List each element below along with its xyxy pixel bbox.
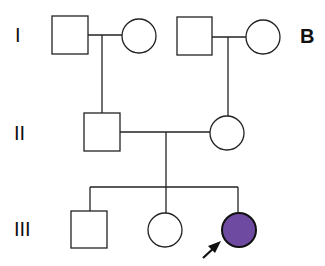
pedigree-chart: I II III B: [0, 0, 325, 266]
individual-III-1-male: [71, 211, 107, 248]
proband-arrow-icon: [203, 241, 221, 258]
individual-II-1-male: [84, 113, 120, 151]
individual-I-3-male: [177, 17, 212, 55]
individual-I-1-male: [52, 16, 88, 54]
individual-III-2-female: [148, 213, 182, 247]
individual-III-3-affected-female: [222, 213, 256, 247]
individual-I-2-female: [122, 19, 156, 53]
individual-II-2-female: [210, 116, 244, 150]
pedigree-lines: [0, 0, 325, 266]
individual-I-4-female: [246, 20, 280, 54]
